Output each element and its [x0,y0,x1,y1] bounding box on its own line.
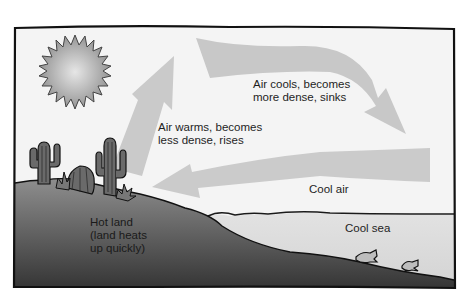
air-cools-label: Air cools, becomes more dense, sinks [253,78,350,104]
diagram-artwork [0,0,466,301]
sea-breeze-diagram: Air warms, becomes less dense, rises Air… [0,0,466,301]
cool-air-label: Cool air [309,183,349,196]
cool-sea-label: Cool sea [345,222,390,235]
hot-land-label: Hot land (land heats up quickly) [90,216,147,255]
air-warms-label: Air warms, becomes less dense, rises [158,121,262,147]
